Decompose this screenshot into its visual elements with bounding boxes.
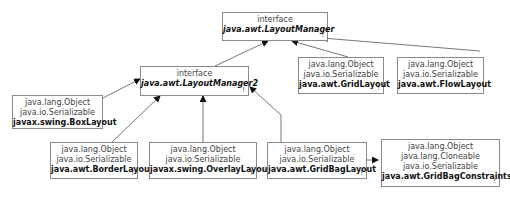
superclass-label: java.lang.Object	[398, 60, 483, 70]
superclass-label: java.lang.Object	[51, 145, 137, 155]
node-grid-layout: java.lang.Object java.io.Serializable ja…	[298, 57, 384, 94]
interface-label: interface	[223, 15, 327, 25]
interface-impl-label: java.io.Serializable	[268, 155, 366, 165]
exclamation-icon: !	[321, 32, 324, 39]
superclass-label: java.lang.Object	[13, 98, 102, 108]
interface-label: interface	[141, 69, 248, 79]
class-name: java.awt.FlowLayout	[398, 80, 483, 90]
superclass-label: java.lang.Object	[150, 145, 256, 155]
node-layout-manager2: interface java.awt.LayoutManager2 !	[140, 66, 249, 96]
node-box-layout: java.lang.Object java.io.Serializable ja…	[12, 95, 103, 129]
superclass-label: java.lang.Object	[382, 142, 499, 152]
class-name: java.awt.GridLayout	[299, 80, 383, 90]
class-name: javax.swing.OverlayLayout	[150, 165, 256, 175]
interface-impl-label: java.lang.Cloneable	[382, 152, 499, 162]
class-name: java.awt.GridBagLayout	[268, 165, 366, 175]
node-gridbag-layout: java.lang.Object java.io.Serializable ja…	[267, 142, 367, 179]
node-gridbag-constraints: java.lang.Object java.lang.Cloneable jav…	[381, 139, 500, 187]
exclamation-icon: !	[477, 85, 480, 92]
class-name: javax.swing.BoxLayout	[13, 118, 102, 128]
superclass-label: java.lang.Object	[268, 145, 366, 155]
node-layout-manager: interface java.awt.LayoutManager !	[222, 12, 328, 41]
exclamation-icon: !	[242, 87, 245, 94]
superclass-label: java.lang.Object	[299, 60, 383, 70]
exclamation-icon: !	[131, 170, 134, 177]
node-flow-layout: java.lang.Object java.io.Serializable ja…	[397, 57, 484, 94]
node-overlay-layout: java.lang.Object java.io.Serializable ja…	[149, 142, 257, 179]
interface-impl-label: java.io.Serializable	[150, 155, 256, 165]
interface-impl-label: java.io.Serializable	[299, 70, 383, 80]
class-name: java.awt.LayoutManager	[223, 25, 327, 35]
class-name: java.awt.LayoutManager2	[141, 79, 248, 89]
interface-impl-label: java.io.Serializable	[51, 155, 137, 165]
interface-impl-label: java.io.Serializable	[398, 70, 483, 80]
class-name: java.awt.BorderLayout	[51, 165, 137, 175]
exclamation-icon: !	[360, 170, 363, 177]
exclamation-icon: !	[250, 170, 253, 177]
exclamation-icon: !	[493, 178, 496, 185]
interface-impl-label: java.io.Serializable	[382, 162, 499, 172]
exclamation-icon: !	[377, 85, 380, 92]
class-name: java.awt.GridBagConstraints	[382, 172, 499, 182]
node-border-layout: java.lang.Object java.io.Serializable ja…	[50, 142, 138, 179]
interface-impl-label: java.io.Serializable	[13, 108, 102, 118]
